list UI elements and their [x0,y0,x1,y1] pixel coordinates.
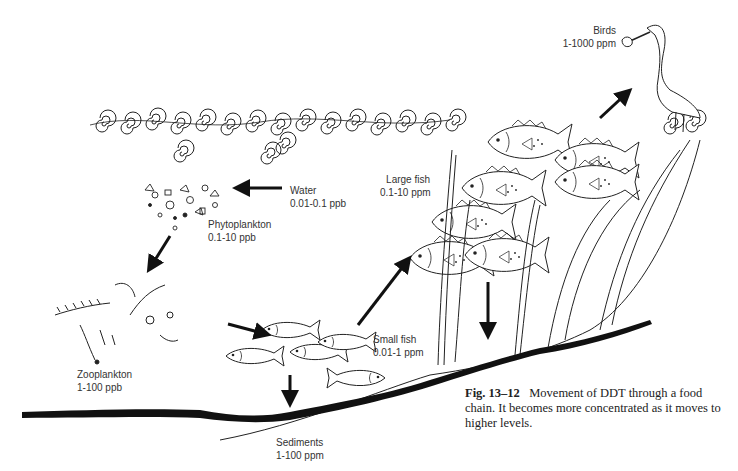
zooplankton-name: Zooplankton [77,368,132,381]
label-small-fish: Small fish 0.01-1 ppm [373,333,424,359]
phytoplankton-name: Phytoplankton [208,218,271,231]
label-zooplankton: Zooplankton 1-100 ppb [77,368,132,394]
zooplankton-concentration: 1-100 ppb [77,381,132,394]
zooplankton-cluster [55,283,178,364]
figure-number: Fig. 13–12 [465,386,520,400]
large-fish-concentration: 0.1-10 ppm [380,186,430,199]
sediments-name: Sediments [276,436,324,449]
water-concentration: 0.01-0.1 ppb [290,197,346,210]
sediments-concentration: 1-100 ppm [276,449,324,462]
small-fish-name: Small fish [373,333,424,346]
bird-egret [622,25,700,132]
large-fish-name: Large fish [380,173,430,186]
label-sediments: Sediments 1-100 ppm [276,436,324,462]
birds-name: Birds [560,24,616,37]
phytoplankton-concentration: 0.1-10 ppb [208,231,271,244]
label-phytoplankton: Phytoplankton 0.1-10 ppb [208,218,271,244]
label-large-fish: Large fish 0.1-10 ppm [380,173,430,199]
small-fish-concentration: 0.01-1 ppm [373,346,424,359]
water-name: Water [290,184,346,197]
birds-concentration: 1-1000 ppm [560,37,616,50]
figure-caption: Fig. 13–12 Movement of DDT through a foo… [465,386,735,431]
label-water: Water 0.01-0.1 ppb [290,184,346,210]
label-birds: Birds 1-1000 ppm [560,24,616,50]
